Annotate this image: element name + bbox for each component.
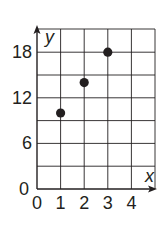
- y-tick-label: 12: [12, 88, 32, 108]
- axes: [34, 25, 158, 193]
- x-axis-label: x: [144, 166, 155, 186]
- x-tick-label: 1: [56, 193, 66, 213]
- coordinate-plane: 01234061218 x y: [0, 0, 167, 225]
- x-tick-label: 2: [79, 193, 89, 213]
- y-tick-label: 18: [12, 42, 32, 62]
- data-point: [80, 78, 89, 87]
- data-point: [103, 48, 112, 57]
- y-tick-label: 6: [22, 133, 32, 153]
- tick-labels: 01234061218: [12, 42, 136, 213]
- y-tick-label: 0: [19, 179, 29, 199]
- x-tick-label: 3: [103, 193, 113, 213]
- data-point: [56, 108, 65, 117]
- grid: [37, 29, 155, 189]
- x-tick-label: 4: [126, 193, 136, 213]
- x-tick-label: 0: [32, 193, 42, 213]
- y-axis-label: y: [43, 27, 55, 47]
